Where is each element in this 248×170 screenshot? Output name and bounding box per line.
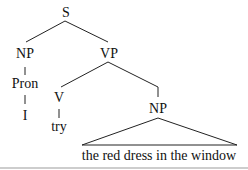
node-pron: Pron bbox=[12, 76, 38, 91]
leaf-try: try bbox=[51, 119, 67, 134]
node-s: S bbox=[62, 5, 70, 20]
leaf-object-phrase: the red dress in the window bbox=[82, 148, 237, 163]
edge-vp-np bbox=[108, 62, 158, 97]
node-vp: VP bbox=[100, 46, 118, 61]
leaf-i: I bbox=[23, 108, 28, 123]
edge-vp-v bbox=[61, 62, 108, 87]
tree-svg: S NP VP Pron I V try NP the red dress in… bbox=[0, 0, 248, 170]
edge-s-vp bbox=[65, 21, 108, 42]
node-np-subject: NP bbox=[16, 46, 34, 61]
node-v: V bbox=[54, 90, 64, 105]
syntax-tree-diagram: S NP VP Pron I V try NP the red dress in… bbox=[0, 0, 248, 170]
node-np-object: NP bbox=[149, 101, 167, 116]
np-triangle bbox=[82, 118, 237, 145]
edge-s-np bbox=[26, 21, 65, 42]
